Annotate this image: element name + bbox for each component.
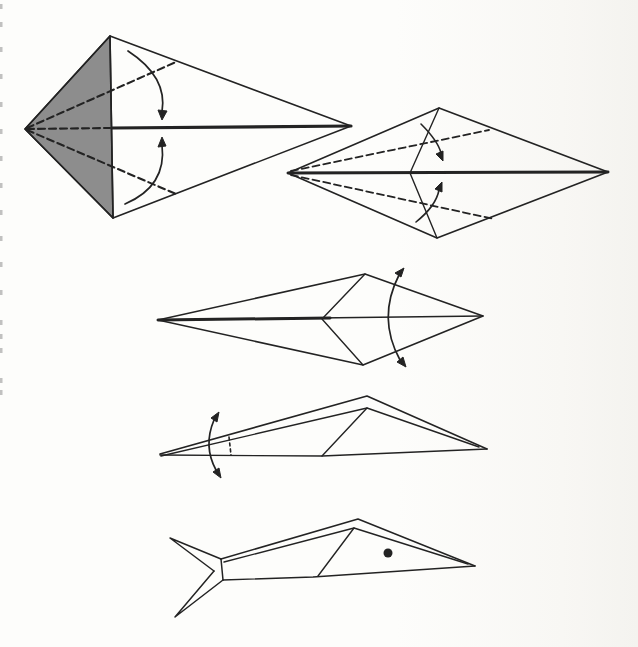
shaded-face [25, 36, 113, 218]
edge-print-mark [0, 348, 3, 353]
edge-print-mark [0, 74, 3, 79]
tail-fin-lower [175, 571, 223, 617]
fold-arrow-curve-upper [421, 124, 441, 153]
scanned-page [0, 0, 638, 647]
step-4-folded-flat [160, 396, 487, 478]
edge-print-mark [0, 210, 3, 215]
figures-root [25, 36, 608, 617]
center-crease-thick [288, 172, 608, 173]
valley-fold-dash-upper [291, 130, 489, 171]
fold-arrow-head-lower [435, 182, 442, 192]
origami-diagram-canvas [0, 0, 638, 647]
fold-arrow-head-lower [213, 468, 221, 478]
edge-print-mark [0, 129, 3, 134]
fish-eye-dot [384, 549, 393, 558]
edge-print-mark [0, 102, 3, 107]
body-bottom-edge [223, 566, 475, 580]
tail-joint [221, 559, 223, 580]
page-edge-artifacts [0, 4, 3, 395]
valley-fold-dash-lower [291, 175, 494, 219]
fold-arrow-head-upper [211, 412, 219, 422]
flap-crease [322, 408, 367, 456]
edge-print-mark [0, 334, 3, 339]
step-1-kite-base [25, 36, 351, 218]
center-crease-thick [158, 318, 330, 320]
body-inner-top-edge [224, 528, 468, 564]
edge-print-mark [0, 4, 3, 9]
edge-print-mark [0, 22, 3, 27]
edge-print-mark [0, 183, 3, 188]
fold-arrow-head-lower [158, 137, 166, 147]
tail-fin-upper [170, 538, 221, 571]
edge-print-mark [0, 47, 3, 52]
edge-print-mark [0, 290, 3, 295]
edge-print-mark [0, 320, 3, 325]
fold-arrow-head-upper [158, 110, 167, 120]
fold-arrow-head-upper [395, 268, 404, 277]
fold-arrow-head-upper [436, 151, 443, 161]
edge-print-mark [0, 378, 3, 383]
body-outer-top-edge [221, 519, 475, 566]
edge-print-mark [0, 156, 3, 161]
body-crease [318, 528, 354, 576]
step-3-slender-kite [158, 268, 483, 367]
edge-print-mark [0, 262, 3, 267]
edge-print-mark [0, 390, 3, 395]
edge-print-mark [0, 236, 3, 241]
center-crease-thick [112, 126, 351, 128]
step-5-finished-fish [170, 519, 475, 617]
